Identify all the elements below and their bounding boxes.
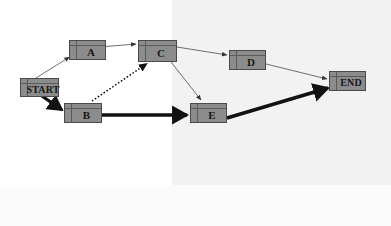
- node-label: D: [237, 55, 265, 69]
- node-start[interactable]: START: [20, 78, 59, 97]
- edge-a-c: [106, 44, 136, 47]
- node-d[interactable]: D: [229, 50, 266, 70]
- edge-start-a: [36, 57, 70, 78]
- edge-e-end: [227, 88, 328, 118]
- edge-c-e: [171, 62, 201, 100]
- diagram-canvas: START A C D END B E: [0, 0, 391, 226]
- node-label: B: [72, 108, 101, 122]
- node-label: C: [146, 45, 176, 61]
- node-label: A: [77, 45, 105, 59]
- edge-c-d: [177, 47, 227, 55]
- node-a[interactable]: A: [69, 40, 106, 60]
- node-label: E: [198, 108, 226, 122]
- edge-start-b: [42, 96, 62, 110]
- node-c[interactable]: C: [138, 40, 177, 62]
- node-b[interactable]: B: [64, 103, 102, 123]
- edge-d-end: [266, 64, 327, 79]
- node-e[interactable]: E: [190, 103, 227, 123]
- edge-b-c: [92, 64, 147, 102]
- node-label: START: [28, 83, 58, 96]
- node-end[interactable]: END: [329, 71, 366, 91]
- node-label: END: [337, 76, 365, 90]
